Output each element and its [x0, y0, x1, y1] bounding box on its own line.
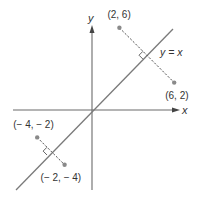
x-axis-label: x — [181, 104, 188, 116]
y-axis-label: y — [87, 12, 95, 24]
point-label: (− 2, − 4) — [41, 172, 82, 183]
reflection-pair: (− 4, − 2) (− 2, − 4) — [13, 119, 81, 182]
reflection-diagram: x y y = x (2, 6) (6, 2) (− 4, − 2) (− 2,… — [0, 0, 199, 203]
point-marker — [62, 163, 66, 167]
x-axis-arrow-icon — [172, 108, 180, 113]
y-axis-arrow-icon — [90, 25, 95, 33]
line-equation-label: y = x — [159, 46, 183, 58]
right-angle-marker — [43, 147, 47, 155]
point-marker — [117, 26, 121, 30]
point-marker — [172, 80, 176, 84]
point-marker — [35, 135, 39, 139]
point-label: (2, 6) — [107, 9, 130, 20]
right-angle-marker — [139, 51, 143, 59]
reflection-segment — [37, 137, 64, 164]
point-label: (− 4, − 2) — [13, 119, 54, 130]
point-label: (6, 2) — [165, 90, 188, 101]
